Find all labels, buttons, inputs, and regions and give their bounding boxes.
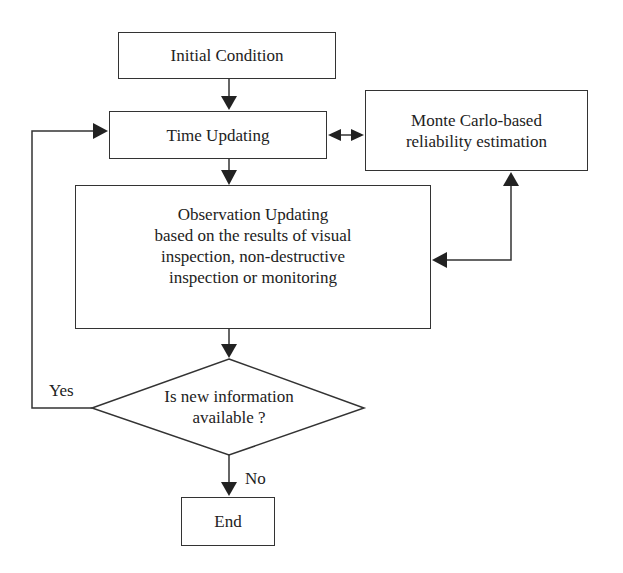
decision-label-line2: available ? [129,407,329,428]
edge-monte-carlo-observation [446,184,511,260]
observation-label-line3: inspection, non-destructive [161,246,345,267]
end-label: End [214,511,241,532]
arrowhead-down-icon [221,170,237,185]
no-label: No [245,469,266,489]
arrowhead-left-icon [432,252,447,268]
decision-label-line1: Is new information [129,386,329,407]
arrowhead-right-icon [351,129,364,141]
arrowhead-down-icon [221,96,237,110]
observation-label-line2: based on the results of visual [155,225,352,246]
observation-updating-box: Observation Updating based on the result… [75,185,431,329]
initial-condition-box: Initial Condition [118,32,336,79]
monte-carlo-box: Monte Carlo-based reliability estimation [365,90,588,171]
observation-label-line1: Observation Updating [178,204,329,225]
time-updating-label: Time Updating [167,125,270,146]
decision-text: Is new information available ? [129,386,329,428]
time-updating-box: Time Updating [109,111,327,159]
arrowhead-up-icon [503,172,519,186]
initial-condition-label: Initial Condition [171,45,284,66]
monte-carlo-label-line2: reliability estimation [406,131,547,152]
observation-label-line4: inspection or monitoring [169,267,337,288]
arrowhead-right-icon [93,123,108,139]
arrowhead-left-icon [328,129,341,141]
end-box: End [181,497,275,546]
monte-carlo-label-line1: Monte Carlo-based [411,110,542,131]
arrowhead-down-icon [221,344,237,358]
yes-label: Yes [49,381,74,401]
arrowhead-down-icon [221,482,237,496]
